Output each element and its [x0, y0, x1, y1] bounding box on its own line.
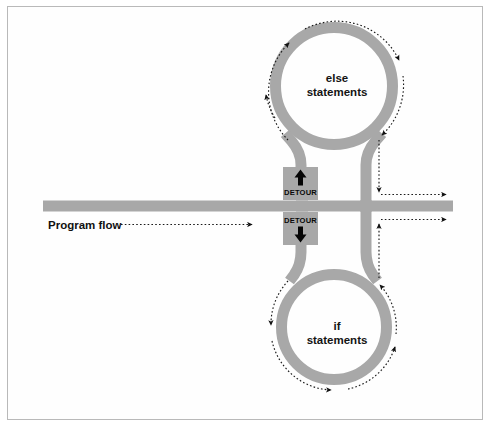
detour-sign-lower-label: DETOUR	[284, 216, 317, 225]
if-label-line2: statements	[307, 334, 368, 346]
road-network	[43, 28, 453, 380]
lower-neck-right	[366, 206, 378, 281]
detour-sign-upper-label: DETOUR	[284, 188, 317, 197]
if-label-line1: if	[333, 320, 340, 332]
else-label-line1: else	[326, 72, 348, 84]
detour-sign-upper[interactable]: DETOUR	[283, 167, 318, 200]
else-label-line2: statements	[307, 86, 368, 98]
flow-diagram: DETOUR DETOUR else statements if stateme…	[0, 0, 491, 429]
program-flow-label: Program flow	[48, 219, 122, 231]
figure-root: DETOUR DETOUR else statements if stateme…	[0, 0, 491, 429]
upper-neck-right	[366, 134, 382, 207]
main-road-left	[43, 201, 308, 212]
detour-sign-lower[interactable]: DETOUR	[283, 212, 318, 245]
main-road-right	[360, 201, 453, 212]
